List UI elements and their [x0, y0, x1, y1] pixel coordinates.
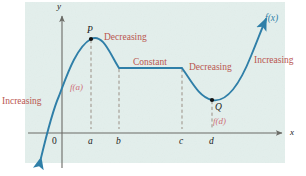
- figure-increasing-decreasing-constant: y x 0 a b c d P Q f(a) f(d) Increasing D…: [0, 0, 306, 176]
- point-Q-marker: [210, 98, 214, 102]
- figure-canvas: [0, 0, 306, 176]
- point-P-marker: [89, 37, 93, 41]
